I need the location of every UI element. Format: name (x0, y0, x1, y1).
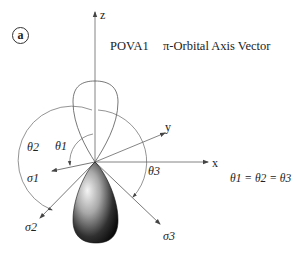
lower-lobe-shaded (73, 162, 118, 243)
theta2-label: θ2 (27, 141, 39, 153)
z-axis-label: z (100, 9, 105, 21)
theta1-label: θ1 (55, 140, 67, 152)
title-name: POVA1 (110, 40, 149, 53)
x-axis-label: x (212, 157, 218, 169)
sigma1-label: σ1 (27, 172, 39, 184)
sigma3-label: σ3 (163, 230, 175, 242)
y-axis-label: y (165, 121, 171, 133)
title-description: π-Orbital Axis Vector (163, 40, 270, 53)
theta3-label: θ3 (148, 165, 160, 177)
theta1-arc (70, 134, 93, 165)
equation: θ1 = θ2 = θ3 (230, 173, 291, 185)
sigma2-label: σ2 (25, 221, 37, 233)
panel-label-badge: a (12, 27, 29, 44)
y-axis (95, 133, 165, 162)
pova-diagram: a z POVA1 π-Orbital Axis Vector θ2 θ1 y … (0, 0, 296, 255)
upper-lobe-outline (73, 81, 118, 162)
